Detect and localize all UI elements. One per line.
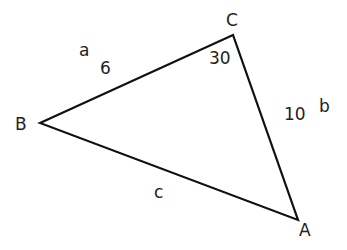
vertex-label-a: A bbox=[299, 222, 311, 239]
vertex-label-b: B bbox=[15, 116, 27, 133]
side-label-c: c bbox=[154, 184, 163, 201]
side-value-a: 6 bbox=[100, 60, 111, 77]
side-value-b: 10 bbox=[284, 106, 306, 123]
angle-value-c: 30 bbox=[209, 50, 231, 67]
side-label-a: a bbox=[79, 42, 89, 59]
triangle-diagram bbox=[0, 0, 347, 250]
triangle-abc bbox=[40, 35, 298, 220]
side-label-b: b bbox=[319, 98, 330, 115]
vertex-label-c: C bbox=[226, 12, 238, 29]
